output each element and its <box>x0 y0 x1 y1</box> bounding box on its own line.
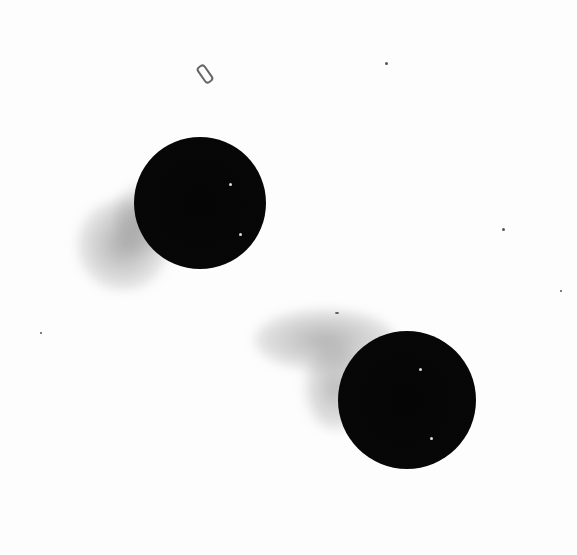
speck <box>502 228 505 231</box>
highlight <box>229 183 232 186</box>
speck <box>385 62 388 65</box>
highlight <box>419 368 422 371</box>
speck <box>335 312 339 314</box>
speck <box>560 290 562 292</box>
speck <box>40 332 42 334</box>
sphere-lower-right <box>338 331 476 469</box>
debris-particle <box>195 63 215 85</box>
sphere-upper-left <box>134 137 266 269</box>
highlight <box>430 437 433 440</box>
highlight <box>239 233 242 236</box>
microscopy-image <box>0 0 577 555</box>
